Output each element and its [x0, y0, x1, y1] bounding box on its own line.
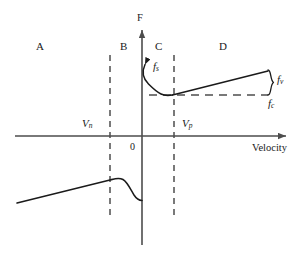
- negative-stribeck-curve: [112, 178, 142, 200]
- fc-subscript: c: [271, 101, 274, 110]
- fc-label: fc: [268, 98, 274, 110]
- region-label-b: B: [120, 41, 127, 52]
- positive-viscous-line: [173, 71, 269, 95]
- x-axis-label: Velocity: [252, 143, 287, 154]
- region-label-d: D: [219, 41, 227, 52]
- negative-viscous-line: [17, 180, 112, 204]
- fs-label: fs: [153, 61, 159, 73]
- vn-subscript: n: [89, 121, 93, 130]
- fv-label: fv: [277, 74, 283, 86]
- region-label-c: C: [155, 41, 162, 52]
- region-label-a: A: [36, 41, 44, 52]
- vp-subscript: p: [189, 121, 193, 130]
- vn-symbol: V: [82, 117, 89, 129]
- vn-label: Vn: [82, 118, 92, 130]
- vp-symbol: V: [182, 117, 189, 129]
- origin-label: 0: [130, 142, 135, 152]
- fv-subscript: v: [280, 77, 283, 86]
- friction-velocity-diagram: A B C D F Velocity 0 Vn Vp fs fv fc: [0, 0, 305, 257]
- diagram-canvas: [0, 0, 305, 257]
- y-axis-label: F: [137, 13, 143, 24]
- fs-subscript: s: [156, 64, 159, 73]
- vp-label: Vp: [182, 118, 192, 130]
- fv-brace: [268, 70, 274, 95]
